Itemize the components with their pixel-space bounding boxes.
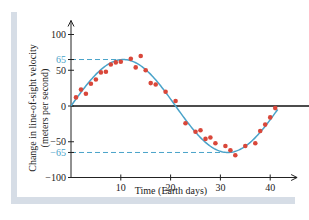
- data-point: [148, 81, 153, 86]
- data-point: [253, 141, 258, 146]
- y-tick-label: 50: [56, 65, 66, 76]
- data-point: [84, 92, 89, 97]
- data-point: [143, 68, 148, 73]
- data-point: [129, 57, 134, 62]
- y-axis-title-line2: (meters per second): [39, 69, 51, 148]
- data-point: [79, 87, 84, 92]
- data-point: [203, 137, 208, 142]
- y-tick-label: 100: [51, 29, 66, 40]
- data-point: [163, 89, 168, 94]
- y-axis-title-line1: Change in line-of-sight velocity: [27, 44, 38, 171]
- data-point: [263, 122, 268, 127]
- data-point: [109, 62, 114, 67]
- data-point: [173, 99, 178, 104]
- data-point: [268, 115, 273, 120]
- data-point: [153, 82, 158, 87]
- x-tick-label: 30: [215, 182, 225, 193]
- data-point: [193, 129, 198, 134]
- data-point: [233, 153, 238, 158]
- data-point: [89, 82, 94, 87]
- y-tick-label: −100: [45, 172, 66, 183]
- data-point: [99, 70, 104, 75]
- data-point: [223, 144, 228, 149]
- y-tick-label: 0: [61, 101, 66, 112]
- reference-label: 65: [56, 54, 66, 65]
- data-point: [119, 59, 124, 64]
- data-point: [228, 148, 233, 153]
- data-point: [208, 135, 213, 140]
- data-point: [94, 77, 99, 82]
- radial-velocity-chart: 65−65100500−50−10010203040 Change in lin…: [0, 0, 309, 220]
- axis-labels: 65−65100500−50−10010203040: [45, 29, 275, 193]
- y-tick-label: −50: [50, 136, 66, 147]
- data-point: [114, 60, 119, 65]
- x-tick-label: 40: [265, 182, 275, 193]
- x-axis-title: Time (Earth days): [135, 185, 207, 197]
- data-point: [273, 106, 278, 111]
- data-point: [74, 95, 79, 100]
- data-point: [243, 144, 248, 149]
- data-point: [138, 54, 143, 59]
- reference-label: −65: [50, 147, 66, 158]
- data-point: [104, 69, 109, 74]
- axes: [68, 21, 309, 181]
- data-point: [133, 65, 138, 70]
- data-point: [198, 128, 203, 133]
- data-point: [183, 121, 188, 126]
- x-tick-label: 10: [116, 182, 126, 193]
- data-point: [258, 129, 263, 134]
- data-point: [213, 141, 218, 146]
